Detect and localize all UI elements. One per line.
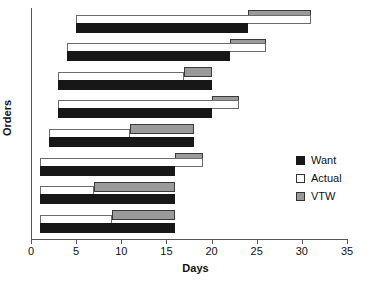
x-axis-line bbox=[31, 239, 347, 240]
bar-group bbox=[31, 124, 347, 153]
x-axis-tick bbox=[31, 239, 32, 244]
bar-want bbox=[58, 108, 211, 118]
x-axis-tick bbox=[257, 239, 258, 244]
bar-group bbox=[31, 10, 347, 39]
x-axis-tick-label: 30 bbox=[289, 245, 315, 258]
chart-container: 05101520253035 Days Orders Want Actual V… bbox=[0, 0, 391, 285]
legend-swatch-want-icon bbox=[296, 156, 305, 165]
x-axis-tick-label: 15 bbox=[153, 245, 179, 258]
bar-vtw bbox=[184, 67, 211, 77]
legend-label-vtw: VTW bbox=[311, 188, 335, 204]
bar-group bbox=[31, 67, 347, 96]
bar-want bbox=[58, 80, 211, 90]
legend-swatch-vtw-icon bbox=[296, 192, 305, 201]
legend-item-want: Want bbox=[296, 152, 342, 168]
y-axis-title: Orders bbox=[1, 73, 13, 163]
bar-want bbox=[49, 137, 193, 147]
x-axis-tick bbox=[212, 239, 213, 244]
x-axis-tick-label: 5 bbox=[63, 245, 89, 258]
legend-label-want: Want bbox=[311, 152, 336, 168]
bar-want bbox=[40, 223, 175, 233]
legend-label-actual: Actual bbox=[311, 170, 342, 186]
bar-group bbox=[31, 39, 347, 68]
x-axis-tick bbox=[302, 239, 303, 244]
x-axis-tick-label: 10 bbox=[108, 245, 134, 258]
bar-want bbox=[40, 166, 175, 176]
legend-item-actual: Actual bbox=[296, 170, 342, 186]
bar-want bbox=[40, 194, 175, 204]
x-axis-tick bbox=[76, 239, 77, 244]
x-axis-tick-label: 35 bbox=[334, 245, 360, 258]
bar-want bbox=[67, 51, 230, 61]
bar-vtw bbox=[94, 182, 175, 192]
bar-group bbox=[31, 210, 347, 239]
x-axis-tick bbox=[121, 239, 122, 244]
x-axis-tick-label: 0 bbox=[18, 245, 44, 258]
legend-swatch-actual-icon bbox=[296, 174, 305, 183]
x-axis-tick-label: 20 bbox=[199, 245, 225, 258]
bar-vtw bbox=[130, 124, 193, 134]
x-axis-tick bbox=[347, 239, 348, 244]
x-axis-tick bbox=[166, 239, 167, 244]
chart-legend: Want Actual VTW bbox=[296, 152, 342, 206]
legend-item-vtw: VTW bbox=[296, 188, 342, 204]
x-axis-title: Days bbox=[0, 262, 391, 274]
bar-group bbox=[31, 96, 347, 125]
bar-vtw bbox=[112, 210, 175, 220]
x-axis-tick-label: 25 bbox=[244, 245, 270, 258]
bar-want bbox=[76, 23, 248, 33]
